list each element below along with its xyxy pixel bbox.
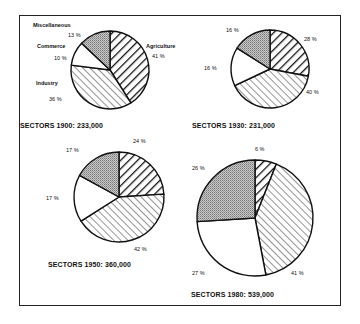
slice-agriculture [119, 152, 164, 197]
label-agriculture: Agriculture [146, 43, 175, 49]
pct-1930-miscellaneous: 16 % [226, 27, 239, 33]
pct-1950-agriculture: 24 % [133, 138, 146, 144]
label-miscellaneous: Miscellaneous [33, 22, 71, 28]
pct-1980-agriculture: 6 % [255, 146, 264, 152]
pct-1950-commerce: 17 % [46, 195, 59, 201]
label-industry: Industry [36, 80, 58, 86]
title-1930: SECTORS 1930: 231,000 [192, 122, 275, 129]
pct-1950-industry: 42 % [134, 246, 147, 252]
pct-1930-agriculture: 28 % [304, 36, 317, 42]
pct-1900-industry: 36 % [49, 96, 62, 102]
pct-1900-agriculture: 41 % [152, 53, 165, 59]
pct-1930-industry: 40 % [306, 89, 319, 95]
title-1980: SECTORS 1980: 539,000 [191, 291, 274, 298]
pct-1980-industry: 41 % [291, 270, 304, 276]
slice-commerce [197, 218, 266, 276]
pct-1950-miscellaneous: 17 % [66, 147, 79, 153]
title-1900: SECTORS 1900: 233,000 [20, 122, 103, 129]
label-commerce: Commerce [37, 43, 65, 49]
pie-1930 [231, 30, 309, 108]
slice-miscellaneous [197, 160, 255, 222]
pct-1900-miscellaneous: 13 % [68, 32, 81, 38]
pct-1980-commerce: 27 % [192, 270, 205, 276]
pie-1950 [74, 152, 164, 242]
pie-1900 [71, 31, 149, 109]
pct-1900-commerce: 10 % [54, 55, 67, 61]
pct-1930-commerce: 16 % [204, 65, 217, 71]
pie-1980 [197, 160, 313, 276]
pct-1980-miscellaneous: 26 % [192, 165, 205, 171]
title-1950: SECTORS 1950: 360,000 [48, 261, 131, 268]
